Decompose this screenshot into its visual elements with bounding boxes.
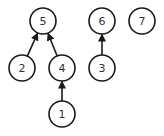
node-5: 5 (30, 8, 56, 34)
edge-4-to-5 (48, 34, 57, 56)
node-label: 3 (99, 62, 106, 75)
node-label: 2 (19, 62, 26, 75)
node-label: 4 (59, 62, 66, 75)
node-1: 1 (49, 101, 75, 127)
node-label: 7 (139, 15, 146, 28)
node-6: 6 (89, 8, 115, 34)
node-label: 1 (59, 108, 66, 121)
edge-2-to-5 (27, 33, 37, 56)
node-4: 4 (49, 55, 75, 81)
node-7: 7 (129, 8, 155, 34)
node-3: 3 (89, 55, 115, 81)
node-2: 2 (9, 55, 35, 81)
nodes-layer: 5672431 (9, 8, 155, 127)
forest-diagram: 5672431 (0, 0, 164, 136)
node-label: 5 (40, 15, 47, 28)
node-label: 6 (99, 15, 106, 28)
